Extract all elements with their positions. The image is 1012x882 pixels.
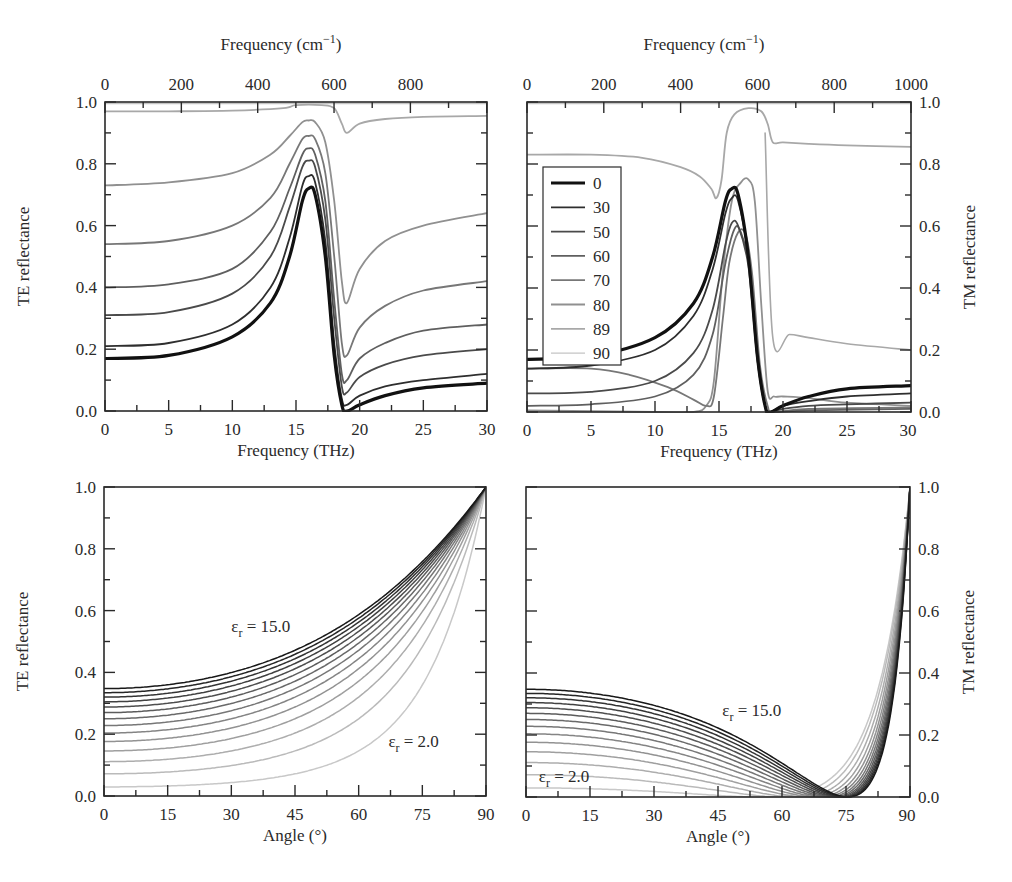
curve-eps-14 xyxy=(104,487,486,693)
curve-eps-9 xyxy=(526,487,910,797)
y-tick-label: 0.2 xyxy=(918,726,939,745)
top-axis-title-superscript: −1 xyxy=(746,32,759,46)
annotation-value: = 15.0 xyxy=(733,701,781,720)
legend-label: 70 xyxy=(593,271,610,290)
x-tick-label: 20 xyxy=(775,421,792,440)
plot-area xyxy=(105,104,487,412)
curve-eps-13 xyxy=(526,487,910,797)
x2-tick-label: 200 xyxy=(169,75,195,94)
x-tick-label: 30 xyxy=(479,420,496,439)
x2-tick-label: 200 xyxy=(591,75,617,94)
x-tick-label: 25 xyxy=(415,420,432,439)
curve-group xyxy=(526,487,910,797)
x-tick-label: 0 xyxy=(522,806,531,825)
legend-label: 30 xyxy=(593,198,610,217)
curve-eps-8 xyxy=(526,487,910,797)
legend-label: 0 xyxy=(593,174,602,193)
x-tick-label: 45 xyxy=(287,805,304,824)
x-tick-label: 60 xyxy=(774,806,791,825)
legend-label: 50 xyxy=(593,223,610,242)
x-tick-label: 10 xyxy=(224,420,241,439)
top-axis-title-close: ) xyxy=(759,35,765,54)
curve-30-deg xyxy=(105,175,487,406)
y-tick-label: 1.0 xyxy=(75,478,96,497)
plot-frame xyxy=(105,102,487,411)
panel-bottom-right: 01530456075900.00.20.40.60.81.0Angle (°)… xyxy=(522,478,978,846)
x2-tick-label: 600 xyxy=(745,75,771,94)
curve-group xyxy=(105,104,487,412)
y-tick-label: 0.8 xyxy=(919,155,940,174)
x-tick-label: 45 xyxy=(710,806,727,825)
x-tick-label: 75 xyxy=(414,805,431,824)
x-tick-label: 20 xyxy=(351,420,368,439)
y-tick-label: 1.0 xyxy=(919,93,940,112)
y-tick-label: 0.4 xyxy=(76,278,98,297)
top-axis-title-superscript: −1 xyxy=(323,32,336,46)
x-tick-label: 5 xyxy=(587,421,596,440)
y-tick-label: 0.0 xyxy=(918,788,939,807)
panel-top-right: 0510152025300.00.20.40.60.81.00200400600… xyxy=(523,32,979,461)
plot-frame xyxy=(526,487,910,797)
x-tick-label: 60 xyxy=(350,805,367,824)
y-tick-label: 0.8 xyxy=(76,155,97,174)
curve-eps-7 xyxy=(104,487,486,733)
x-tick-label: 30 xyxy=(646,806,663,825)
x-tick-label: 15 xyxy=(711,421,728,440)
x-axis-title: Frequency (THz) xyxy=(237,441,355,460)
x-tick-label: 0 xyxy=(523,421,532,440)
x-tick-label: 90 xyxy=(899,806,916,825)
x-axis-title: Angle (°) xyxy=(686,827,750,846)
legend-label: 60 xyxy=(593,247,610,266)
curve-eps-14 xyxy=(526,487,910,797)
x-tick-label: 0 xyxy=(100,805,109,824)
y-tick-label: 0.4 xyxy=(918,664,940,683)
x-tick-label: 0 xyxy=(101,420,110,439)
annotation-value: = 2.0 xyxy=(400,732,439,751)
curve-eps-5 xyxy=(526,487,910,797)
x2-tick-label: 1000 xyxy=(894,75,928,94)
ticks xyxy=(526,487,910,797)
x2-tick-label: 400 xyxy=(668,75,694,94)
x2-tick-label: 400 xyxy=(245,75,271,94)
x-axis-title: Frequency (THz) xyxy=(660,442,778,461)
curve-50-deg xyxy=(105,160,487,395)
x-tick-label: 15 xyxy=(288,420,305,439)
panel-bottom-left: 01530456075900.00.20.40.60.81.0Angle (°)… xyxy=(13,478,495,845)
annotation-epsilon: ε xyxy=(539,767,546,786)
x-tick-label: 25 xyxy=(839,421,856,440)
curve-eps-10 xyxy=(526,487,910,797)
annotation-eps-label: εr = 2.0 xyxy=(539,767,589,790)
x2-tick-label: 0 xyxy=(101,75,110,94)
x-tick-label: 10 xyxy=(647,421,664,440)
curve-eps-12 xyxy=(104,487,486,702)
curve-eps-15 xyxy=(526,487,910,797)
y-tick-label: 0.0 xyxy=(76,402,97,421)
curve-eps-7 xyxy=(526,487,910,797)
legend-label: 90 xyxy=(593,344,610,363)
ticks xyxy=(105,102,487,411)
top-axis-title-text: Frequency (cm xyxy=(221,35,323,54)
top-axis-title-close: ) xyxy=(336,35,342,54)
curve-70-deg xyxy=(105,135,487,357)
y-tick-label: 1.0 xyxy=(76,93,97,112)
panel-top-left: 0510152025300.00.20.40.60.81.00200400600… xyxy=(14,32,496,460)
y-tick-label: 0.2 xyxy=(919,341,940,360)
top-axis-title: Frequency (cm−1) xyxy=(221,32,342,54)
annotation-eps-label: εr = 2.0 xyxy=(388,732,438,755)
y-tick-label: 0.2 xyxy=(75,725,96,744)
legend: 030506070808990 xyxy=(543,167,621,365)
y-tick-label: 0.6 xyxy=(918,602,939,621)
y-tick-label: 0.6 xyxy=(76,217,97,236)
legend-label: 89 xyxy=(593,320,610,339)
y-axis-title: TE reflectance xyxy=(14,207,33,307)
x-tick-label: 15 xyxy=(582,806,599,825)
annotation-value: = 15.0 xyxy=(242,617,290,636)
y-tick-label: 0.0 xyxy=(919,403,940,422)
y-axis-title: TE reflectance xyxy=(13,592,32,692)
y-tick-label: 0.4 xyxy=(75,663,97,682)
y-tick-label: 0.0 xyxy=(75,787,96,806)
plot-area xyxy=(526,487,910,797)
curve-eps-4 xyxy=(526,487,910,797)
annotation-epsilon: ε xyxy=(231,617,238,636)
curve-eps-10 xyxy=(104,487,486,713)
